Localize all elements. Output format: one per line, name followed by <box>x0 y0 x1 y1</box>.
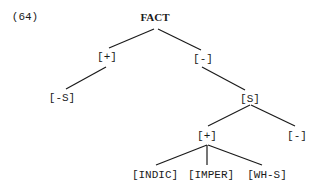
edge-plus-wh-s <box>208 145 262 165</box>
root-node-fact: FACT <box>140 12 169 23</box>
node-minus-top: [-] <box>193 54 213 65</box>
leaf-indic: [INDIC] <box>132 170 178 181</box>
edge-plus-minus-s <box>66 67 106 89</box>
edge-minus-s <box>202 67 245 90</box>
leaf-wh-s: [WH-S] <box>247 170 287 181</box>
node-s: [S] <box>240 94 260 105</box>
feature-tree-diagram: (64) FACT [+] [-] [-S] [S] [+] [-] [INDI… <box>0 0 319 186</box>
edge-fact-plus <box>109 29 154 48</box>
node-minus-low: [-] <box>287 131 307 142</box>
edge-plus-indic <box>156 145 207 165</box>
node-plus-top: [+] <box>97 52 117 63</box>
node-plus-low: [+] <box>197 131 217 142</box>
edge-fact-minus <box>158 29 201 50</box>
node-minus-s: [-S] <box>49 93 75 104</box>
leaf-imper: [IMPER] <box>188 170 234 181</box>
example-number: (64) <box>12 12 38 23</box>
edge-s-plus <box>208 105 250 126</box>
edge-s-minus <box>251 105 295 126</box>
